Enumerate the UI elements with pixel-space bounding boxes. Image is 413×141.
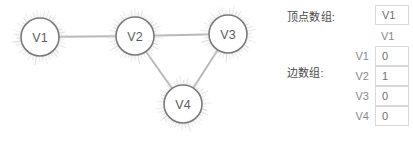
- graph-node-v4[interactable]: V4: [164, 85, 202, 123]
- graph-panel: V1V2V3V4: [0, 0, 270, 141]
- node-circle[interactable]: [209, 15, 247, 53]
- graph-node-v2[interactable]: V2: [116, 17, 154, 55]
- node-circle[interactable]: [116, 17, 154, 55]
- vertex-array-label: 顶点数组:: [287, 8, 335, 24]
- matrix-row-header: V1: [345, 46, 369, 66]
- matrix-row-header: V3: [345, 86, 369, 106]
- matrix-cell[interactable]: 1: [375, 66, 409, 86]
- nodes-layer: V1V2V3V4: [21, 15, 247, 123]
- graph-node-v1[interactable]: V1: [21, 18, 59, 56]
- matrix-row-header: V4: [345, 106, 369, 126]
- array-form-panel: 顶点数组: 边数组: V1 V1V10V21V30V40: [270, 0, 399, 141]
- matrix-cell[interactable]: 0: [375, 86, 409, 106]
- edge-array-label: 边数组:: [287, 64, 324, 80]
- matrix-row-header: V2: [345, 66, 369, 86]
- matrix-cell[interactable]: 0: [375, 46, 409, 66]
- node-circle[interactable]: [21, 18, 59, 56]
- graph-node-v3[interactable]: V3: [209, 15, 247, 53]
- node-circle[interactable]: [164, 85, 202, 123]
- matrix-column-header: V1: [375, 28, 413, 44]
- vertex-array-input[interactable]: V1: [375, 5, 409, 25]
- graph-canvas[interactable]: V1V2V3V4: [0, 0, 270, 141]
- matrix-cell[interactable]: 0: [375, 106, 409, 126]
